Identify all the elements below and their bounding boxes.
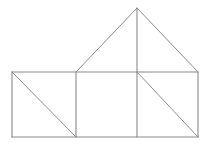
figure-background (0, 0, 209, 148)
geometric-figure: House-shaped geometric line figure A lin… (0, 0, 209, 148)
